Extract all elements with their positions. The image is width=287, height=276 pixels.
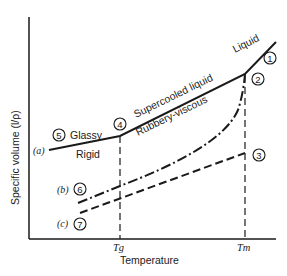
point-marker-6: 6 — [74, 183, 86, 195]
point-marker-3: 3 — [253, 149, 265, 161]
specific-volume-diagram: Specific volume (l/ρ) Temperature Tg Tm … — [0, 0, 287, 276]
point-marker-7: 7 — [74, 218, 86, 230]
svg-text:3: 3 — [256, 150, 261, 161]
y-axis-label: Specific volume (l/ρ) — [9, 110, 21, 205]
tg-label: Tg — [113, 242, 124, 253]
tm-label: Tm — [237, 242, 251, 253]
curve-b-label: (b) — [57, 184, 69, 196]
point-marker-5: 5 — [53, 129, 65, 141]
svg-text:6: 6 — [77, 184, 82, 195]
point-marker-2: 2 — [252, 73, 264, 85]
svg-text:7: 7 — [77, 219, 82, 230]
curve-a-label: (a) — [33, 145, 45, 157]
liquid-label: Liquid — [230, 31, 261, 54]
svg-text:2: 2 — [255, 74, 260, 85]
point-marker-4: 4 — [114, 118, 126, 130]
svg-text:1: 1 — [267, 53, 272, 64]
curve-c-dashed — [80, 153, 245, 213]
point-marker-1: 1 — [264, 52, 276, 64]
glassy-label: Glassy — [70, 129, 103, 141]
svg-text:5: 5 — [56, 130, 61, 141]
curve-c-label: (c) — [57, 218, 69, 230]
x-axis-label: Temperature — [120, 254, 179, 266]
svg-text:4: 4 — [117, 119, 122, 130]
rigid-label: Rigid — [76, 148, 100, 160]
